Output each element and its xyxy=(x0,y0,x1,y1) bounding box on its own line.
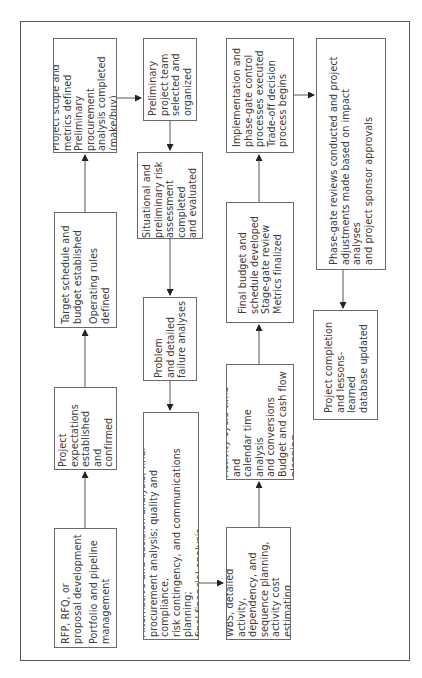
node-implementation: Implementation and phase-gate control pr… xyxy=(226,38,294,153)
node-completion: Project completion and lessons-learned d… xyxy=(313,310,378,420)
node-situational-text: Situational and preliminary risk assessm… xyxy=(141,154,199,238)
node-target-text-b: Operating rules defined xyxy=(88,216,111,324)
node-scope: Project scope and metrics defined Prelim… xyxy=(53,38,117,153)
node-phasegate: Phase-gate reviews conducted and project… xyxy=(316,38,386,270)
node-target: Target schedule and budget established O… xyxy=(54,212,117,328)
node-phasegate-text: Phase-gate reviews conducted and project… xyxy=(328,43,374,265)
node-team: Preliminary project team selected and or… xyxy=(143,38,197,121)
node-finalbudget-text: Final budget and schedule developed Stag… xyxy=(237,212,283,314)
node-alternative-text: Alternative and decision analysis; final… xyxy=(143,415,199,637)
node-completion-text: Project completion and lessons-learned d… xyxy=(322,317,368,413)
node-expectations: Project expectations established and con… xyxy=(54,387,117,470)
node-finalbudget: Final budget and schedule developed Stag… xyxy=(226,202,294,323)
node-alternative: Alternative and decision analysis; final… xyxy=(143,412,199,640)
node-expectations-text: Project expectations established and con… xyxy=(57,391,115,467)
node-situational: Situational and preliminary risk assessm… xyxy=(137,152,203,239)
node-rfp-text-b: Portfolio and pipeline management xyxy=(88,532,111,644)
node-problem: Problem and detailed failure analyses xyxy=(143,297,197,381)
node-target-text-a: Target schedule and budget established xyxy=(60,216,83,324)
node-team-text: Preliminary project team selected and or… xyxy=(147,44,193,116)
node-activity-text: Activity cycle time and calendar time an… xyxy=(226,367,294,477)
node-wbs: WBS, detailed activity, dependency, and … xyxy=(226,527,291,640)
node-activity: Activity cycle time and calendar time an… xyxy=(226,364,294,480)
node-rfp-text-a: RFP, RFQ, or proposal development xyxy=(60,532,83,644)
node-implementation-text: Implementation and phase-gate control pr… xyxy=(231,45,289,147)
node-wbs-text: WBS, detailed activity, dependency, and … xyxy=(226,531,291,637)
node-rfp: RFP, RFQ, or proposal development Portfo… xyxy=(54,528,117,648)
node-scope-text: Project scope and metrics defined Prelim… xyxy=(53,41,117,151)
node-problem-text: Problem and detailed failure analyses xyxy=(153,300,188,378)
